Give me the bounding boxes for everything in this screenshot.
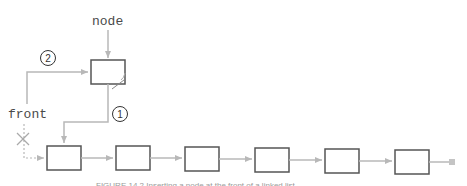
- cross-out-icon: [17, 133, 29, 145]
- node-label: node: [92, 14, 123, 29]
- step-2-marker: 2: [41, 51, 56, 66]
- list-node-3: [185, 147, 219, 171]
- step-1-number: 1: [117, 109, 123, 120]
- figure-caption: FIGURE 14.2 Inserting a node at the fron…: [96, 181, 296, 186]
- list-node-5: [325, 149, 359, 173]
- null-terminator: [449, 159, 455, 165]
- linked-list-insertion-diagram: node 2 front 1: [0, 0, 467, 186]
- front-label: front: [8, 107, 47, 122]
- linked-list-row: [47, 146, 455, 174]
- list-node-1: [47, 146, 81, 170]
- list-node-6: [395, 150, 429, 174]
- list-node-2: [116, 146, 150, 170]
- step-1-arrow: [64, 84, 108, 143]
- step-2-arrow: [27, 72, 88, 104]
- list-node-4: [255, 148, 289, 172]
- step-2-number: 2: [45, 53, 51, 64]
- old-front-pointer-dashed: [24, 124, 44, 158]
- step-1-marker: 1: [113, 107, 128, 122]
